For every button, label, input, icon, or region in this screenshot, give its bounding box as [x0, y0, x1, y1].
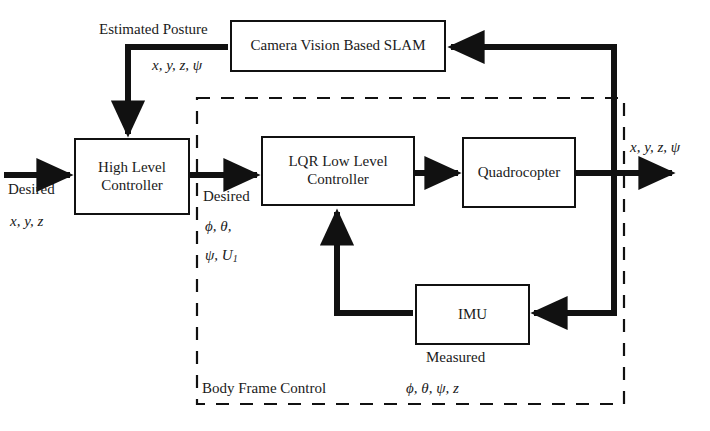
block-label-high-level-controller-line2: Controller — [94, 177, 170, 195]
label-estimated-posture-signals: x, y, z, ψ — [152, 56, 202, 75]
block-label-slam: Camera Vision Based SLAM — [246, 37, 429, 55]
label-desired-body-frame-signals-line2-text: ψ, U — [205, 247, 233, 263]
label-body-frame-control: Body Frame Control — [202, 379, 326, 398]
label-desired-body-frame-signals-line2-subscript: 1 — [233, 253, 238, 264]
label-desired-body-frame: Desired — [203, 187, 250, 206]
label-output-signals: x, y, z, ψ — [630, 138, 680, 157]
block-label-lqr-line2: Controller — [284, 171, 391, 189]
label-desired-input: Desired — [8, 180, 55, 199]
block-label-lqr: LQR Low Level Controller — [280, 153, 395, 188]
block-label-high-level-controller: High Level Controller — [90, 159, 174, 194]
block-quadrocopter[interactable]: Quadrocopter — [462, 137, 576, 208]
label-measured-signals: ϕ, θ, ψ, z — [406, 379, 459, 398]
block-label-quadrocopter: Quadrocopter — [474, 164, 564, 182]
block-lqr-low-level-controller[interactable]: LQR Low Level Controller — [261, 136, 415, 206]
block-camera-vision-based-slam[interactable]: Camera Vision Based SLAM — [230, 20, 446, 72]
label-desired-body-frame-signals-line2: ψ, U1 — [205, 246, 238, 265]
label-desired-input-signals: x, y, z — [10, 212, 43, 231]
block-label-lqr-line1: LQR Low Level — [284, 153, 391, 171]
arrow-imu-to-lqr — [337, 212, 413, 313]
label-desired-body-frame-signals-line1: ϕ, θ, — [205, 217, 231, 236]
block-high-level-controller[interactable]: High Level Controller — [74, 138, 190, 215]
block-imu[interactable]: IMU — [415, 284, 530, 345]
block-label-high-level-controller-line1: High Level — [94, 159, 170, 177]
block-label-imu: IMU — [454, 306, 491, 324]
label-measured: Measured — [426, 348, 485, 367]
control-block-diagram: Camera Vision Based SLAM High Level Cont… — [0, 0, 710, 431]
label-estimated-posture: Estimated Posture — [99, 20, 208, 39]
